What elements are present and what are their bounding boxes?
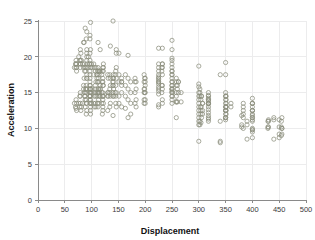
x-tick-label: 0 <box>36 205 40 214</box>
x-tick-label: 300 <box>193 205 206 214</box>
x-tick-label: 100 <box>85 205 98 214</box>
y-tick-label: 0 <box>28 196 32 205</box>
y-tick-label: 25 <box>24 17 32 26</box>
x-axis-title: Displacement <box>141 226 200 236</box>
x-tick-label: 400 <box>246 205 259 214</box>
x-tick-label: 50 <box>61 205 69 214</box>
x-tick-label: 150 <box>112 205 125 214</box>
x-tick-label: 450 <box>273 205 286 214</box>
y-tick-label: 5 <box>28 160 32 169</box>
x-tick-label: 250 <box>166 205 179 214</box>
x-tick-label: 200 <box>139 205 152 214</box>
y-tick-label: 10 <box>24 124 32 133</box>
chart-background <box>0 0 315 240</box>
y-axis-title: Acceleration <box>6 83 16 137</box>
y-tick-label: 15 <box>24 88 32 97</box>
scatter-chart: 0510152025050100150200250300350400450500… <box>0 0 315 240</box>
chart-canvas: 0510152025050100150200250300350400450500… <box>0 0 315 240</box>
x-tick-label: 500 <box>300 205 313 214</box>
y-tick-label: 20 <box>24 53 32 62</box>
x-tick-label: 350 <box>219 205 232 214</box>
